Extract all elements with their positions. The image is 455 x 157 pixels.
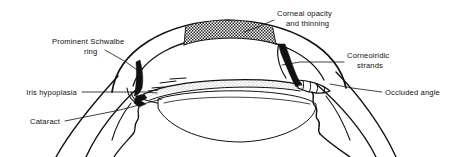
leader-prominent-schwalbe-ring <box>105 50 140 72</box>
label-cataract: Cataract <box>30 117 61 126</box>
eye-anatomy-figure: Corneal opacity and thinning Prominent S… <box>0 0 455 157</box>
anterior-segment-drawing: Corneal opacity and thinning Prominent S… <box>0 0 455 157</box>
label-corneal-opacity-line1: Corneal opacity <box>277 9 332 18</box>
zonules-right <box>312 92 350 157</box>
leader-occluded-angle <box>330 84 382 92</box>
lens <box>158 91 316 142</box>
label-iris-hypoplasia: Iris hypoplasia <box>26 88 77 97</box>
leader-cataract <box>65 99 162 121</box>
label-occluded-angle: Occluded angle <box>385 88 440 97</box>
label-prominent-schwalbe-ring-line2: ring <box>84 47 97 56</box>
label-prominent-schwalbe-ring-line1: Prominent Schwalbe <box>52 37 124 46</box>
label-corneoiridic-strands-line1: Corneoiridic <box>347 51 389 60</box>
label-corneoiridic-strands-line2: strands <box>357 61 383 70</box>
label-corneal-opacity-line2: and thinning <box>286 19 329 28</box>
zonules-left <box>112 94 147 157</box>
